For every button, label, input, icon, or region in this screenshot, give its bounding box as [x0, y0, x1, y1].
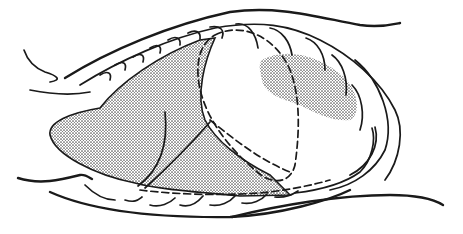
- lower-left-lip: [18, 175, 92, 182]
- illustration: [0, 0, 463, 234]
- left-stippled-mass: [50, 38, 290, 196]
- right-membrane-2: [295, 128, 374, 193]
- left-strand-lower: [30, 90, 90, 94]
- right-stippled-patch: [260, 54, 357, 120]
- left-strand-upper: [24, 50, 57, 82]
- outer-membrane-top: [65, 10, 400, 78]
